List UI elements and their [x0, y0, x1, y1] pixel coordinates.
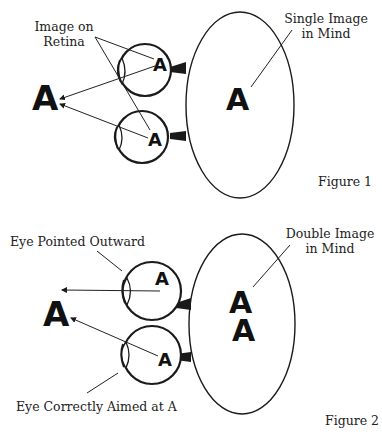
label-eye-pointed-outward: Eye Pointed Outward [10, 234, 145, 249]
optic-nerve-icon [170, 62, 186, 74]
pointer-line [87, 373, 118, 393]
retina-letter-bottom: A [158, 349, 172, 370]
label-image-on-retina-line1: Image on [34, 19, 93, 34]
label-image-on-retina-line2: Retina [43, 34, 85, 49]
figure-2: A A A A A Eye Pointed Outward Eye Correc… [10, 226, 379, 428]
mind-letter-bottom: A [232, 313, 256, 348]
mind-letter: A [226, 82, 250, 117]
label-double-image-line1: Double Image [286, 226, 375, 241]
pointer-line [97, 251, 122, 271]
object-letter: A [32, 78, 59, 118]
retina-letter-top: A [155, 268, 169, 289]
object-letter: A [43, 294, 70, 334]
label-single-image-line2: in Mind [302, 26, 351, 41]
figure-1-caption: Figure 1 [318, 174, 372, 189]
retina-letter-bottom: A [148, 129, 162, 150]
optic-nerve-icon [170, 131, 186, 141]
retina-letter-top: A [153, 54, 167, 75]
label-double-image-line2: in Mind [306, 241, 355, 256]
label-eye-correctly-aimed: Eye Correctly Aimed at A [16, 399, 178, 414]
figure-2-caption: Figure 2 [325, 413, 379, 428]
diplopia-diagram: A A A A Image on Retina Single Image in … [0, 0, 382, 436]
label-single-image-line1: Single Image [284, 11, 368, 26]
eye-correct-icon [121, 326, 181, 384]
figure-1: A A A A Image on Retina Single Image in … [32, 11, 372, 198]
